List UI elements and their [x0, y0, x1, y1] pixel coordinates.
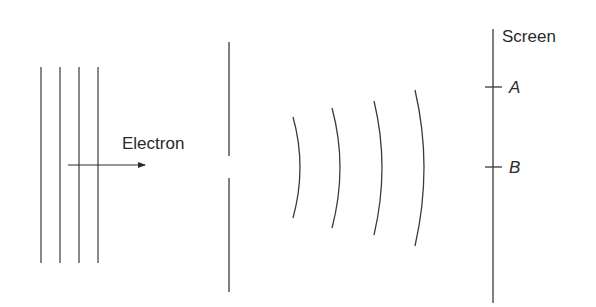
point-b-label: B: [509, 158, 520, 177]
point-a-label: A: [508, 78, 520, 97]
diffracted-wavefronts: [293, 90, 424, 246]
screen: [485, 29, 502, 303]
electron-label: Electron: [122, 134, 184, 153]
diffracted-wavefront-2: [332, 108, 340, 228]
screen-label: Screen: [502, 27, 556, 46]
diffracted-wavefront-1: [293, 117, 300, 218]
diffracted-wavefront-3: [374, 101, 382, 235]
diffraction-diagram: Electron Screen A B: [0, 0, 596, 307]
diffracted-wavefront-4: [415, 90, 424, 246]
